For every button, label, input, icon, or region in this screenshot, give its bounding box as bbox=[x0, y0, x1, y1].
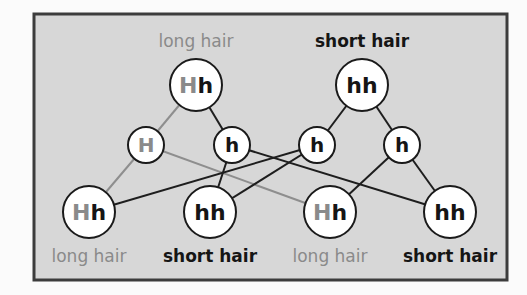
allele-dominant: H bbox=[138, 133, 155, 157]
gamete-node: h bbox=[214, 127, 250, 163]
diagram-frame bbox=[34, 14, 507, 280]
allele-recessive: h bbox=[197, 73, 213, 98]
allele-recessive: h bbox=[310, 133, 324, 157]
offspring-node: Hh bbox=[304, 186, 356, 238]
parent-genotype: Hh bbox=[179, 73, 213, 98]
allele-recessive: h bbox=[194, 200, 210, 225]
allele-recessive: h bbox=[346, 73, 362, 98]
parent-node: hh bbox=[336, 59, 388, 111]
allele-recessive: h bbox=[331, 200, 347, 225]
allele-dominant: H bbox=[313, 200, 331, 225]
gamete-genotype: h bbox=[395, 133, 409, 157]
allele-dominant: H bbox=[179, 73, 197, 98]
allele-recessive: h bbox=[225, 133, 239, 157]
phenotype-label: long hair bbox=[159, 31, 234, 51]
offspring-genotype: Hh bbox=[313, 200, 347, 225]
gamete-genotype: H bbox=[138, 133, 155, 157]
phenotype-label: long hair bbox=[52, 246, 127, 266]
gamete-genotype: h bbox=[310, 133, 324, 157]
offspring-node: Hh bbox=[63, 186, 115, 238]
allele-dominant: H bbox=[72, 200, 90, 225]
offspring-genotype: hh bbox=[194, 200, 225, 225]
offspring-genotype: hh bbox=[434, 200, 465, 225]
phenotype-label: short hair bbox=[403, 246, 498, 266]
offspring-node: hh bbox=[184, 186, 236, 238]
parent-node: Hh bbox=[170, 59, 222, 111]
allele-recessive: h bbox=[434, 200, 450, 225]
gamete-node: H bbox=[128, 127, 164, 163]
gamete-genotype: h bbox=[225, 133, 239, 157]
offspring-genotype: Hh bbox=[72, 200, 106, 225]
phenotype-label: short hair bbox=[163, 246, 258, 266]
inheritance-diagram: HhhhHhhhHhhhHhhh long hairshort hairlong… bbox=[0, 0, 527, 295]
offspring-node: hh bbox=[424, 186, 476, 238]
phenotype-label: short hair bbox=[315, 31, 410, 51]
allele-recessive: h bbox=[395, 133, 409, 157]
phenotype-label: long hair bbox=[293, 246, 368, 266]
gamete-node: h bbox=[384, 127, 420, 163]
parent-genotype: hh bbox=[346, 73, 377, 98]
allele-recessive: h bbox=[90, 200, 106, 225]
allele-recessive: h bbox=[210, 200, 226, 225]
allele-recessive: h bbox=[362, 73, 378, 98]
allele-recessive: h bbox=[450, 200, 466, 225]
gamete-node: h bbox=[299, 127, 335, 163]
